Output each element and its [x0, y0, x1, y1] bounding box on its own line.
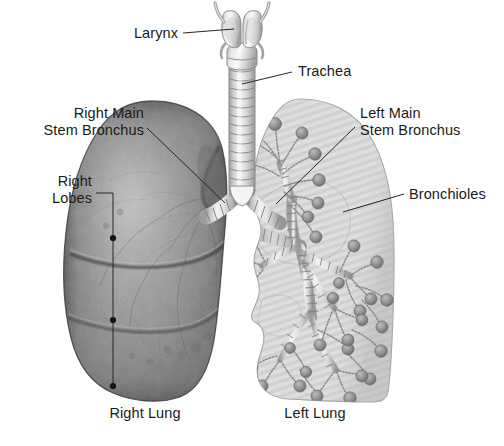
lobe-marker-upper: [110, 235, 116, 241]
label-right-main-stem-bronchus-line2: Stem Bronchus: [10, 122, 144, 139]
label-left-main-stem-bronchus-line2: Stem Bronchus: [360, 122, 504, 139]
lobe-marker-lower: [110, 383, 116, 389]
label-right-lobes-line2: Lobes: [10, 190, 92, 207]
label-bronchioles: Bronchioles: [409, 186, 504, 203]
label-trachea: Trachea: [298, 63, 418, 80]
label-larynx: Larynx: [60, 25, 178, 42]
anatomy-illustration: [0, 0, 504, 446]
label-right-lobes-line1: Right: [10, 173, 92, 190]
right-lung-graphic: [60, 95, 235, 415]
label-left-main-stem-bronchus-line1: Left Main: [360, 105, 504, 122]
label-right-main-stem-bronchus-line1: Right Main: [10, 105, 144, 122]
respiratory-system-figure: Larynx Trachea Right Main Stem Bronchus …: [0, 0, 504, 446]
label-left-lung: Left Lung: [250, 405, 380, 422]
label-right-lung: Right Lung: [80, 405, 210, 422]
lobe-marker-middle: [110, 317, 116, 323]
